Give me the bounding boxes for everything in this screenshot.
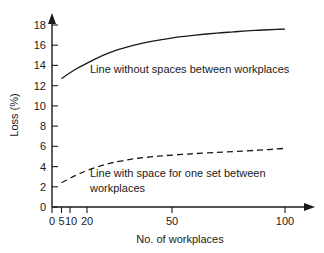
annotation-line-with-space-row2: workplaces bbox=[89, 182, 146, 194]
x-tick-label: 0 bbox=[49, 215, 55, 227]
x-axis-ticks bbox=[52, 207, 285, 213]
annotation-line-with-space-row1: Line with space for one set between bbox=[90, 167, 266, 179]
x-axis-tick-labels: 0 5 10 20 50 100 bbox=[49, 215, 294, 227]
y-axis-ticks bbox=[52, 25, 58, 207]
y-tick-label: 4 bbox=[40, 161, 46, 173]
x-axis-arrow-icon bbox=[304, 203, 315, 211]
y-tick-label: 10 bbox=[34, 100, 46, 112]
y-tick-label: 16 bbox=[34, 39, 46, 51]
line-chart: 0 2 4 6 8 10 12 14 16 18 0 5 10 20 50 bbox=[0, 0, 324, 253]
y-axis-title: Loss (%) bbox=[8, 93, 20, 136]
x-tick-label: 50 bbox=[166, 215, 178, 227]
y-tick-label: 14 bbox=[34, 59, 46, 71]
y-tick-label: 18 bbox=[34, 19, 46, 31]
y-tick-label: 2 bbox=[40, 181, 46, 193]
x-tick-label: 100 bbox=[276, 215, 294, 227]
y-tick-label: 0 bbox=[40, 201, 46, 213]
x-tick-label: 5 bbox=[58, 215, 64, 227]
x-tick-label: 10 bbox=[65, 215, 77, 227]
y-axis-arrow-icon bbox=[48, 13, 56, 24]
y-axis-tick-labels: 0 2 4 6 8 10 12 14 16 18 bbox=[34, 19, 46, 213]
y-tick-label: 6 bbox=[40, 140, 46, 152]
x-axis-title: No. of workplaces bbox=[136, 233, 224, 245]
y-tick-label: 8 bbox=[40, 120, 46, 132]
annotation-line-without-spaces: Line without spaces between workplaces bbox=[90, 63, 290, 75]
x-tick-label: 20 bbox=[81, 215, 93, 227]
chart-figure: 0 2 4 6 8 10 12 14 16 18 0 5 10 20 50 bbox=[0, 0, 324, 253]
y-tick-label: 12 bbox=[34, 80, 46, 92]
